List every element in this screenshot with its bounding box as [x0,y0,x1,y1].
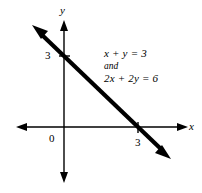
equation-annotation: x + y = 3 and 2x + 2y = 6 [104,47,196,85]
y-axis-top-arrowhead [60,20,68,31]
x-intercept-tick-label: 3 [135,137,141,148]
equation-conjunction: and [104,60,196,72]
x-axis-right-arrowhead [177,123,188,131]
y-intercept-tick-label: 3 [45,50,51,61]
equation-line-2: 2x + 2y = 6 [104,72,196,85]
equation-line-1: x + y = 3 [104,47,196,60]
origin-label: 0 [49,133,55,144]
graph-figure: y x 3 0 3 x + y = 3 and 2x + 2y = 6 [0,0,202,193]
x-axis-left-arrowhead [16,123,27,131]
y-axis [60,20,68,183]
x-axis-label: x [189,121,194,132]
y-axis-bottom-arrowhead [60,172,68,183]
x-axis [16,123,188,131]
y-axis-label: y [60,5,65,16]
coordinate-plane-svg [0,0,202,193]
